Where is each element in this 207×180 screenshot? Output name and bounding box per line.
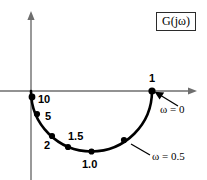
marker-omega-0 [148, 87, 155, 94]
annotation-omega-half: ω = 0.5 [152, 151, 185, 162]
annotation-omega-zero: ω = 0 [160, 104, 184, 115]
gjw-title-text: G(jω) [162, 14, 190, 28]
marker-omega-0p5 [121, 137, 127, 143]
imaginary-axis-arrowhead [27, 11, 34, 20]
label-omega-5: 5 [45, 111, 51, 122]
marker-omega-5 [34, 111, 40, 117]
marker-omega-1p0 [88, 148, 94, 154]
label-omega-1p5: 1.5 [68, 131, 83, 142]
nyquist-plot-figure: G(jω) 1 10 5 2 1.5 1.0 ω = 0 ω = 0.5 [0, 0, 207, 180]
marker-omega-10 [29, 94, 36, 101]
label-omega-2: 2 [44, 140, 50, 151]
omega-half-leader-arrow [131, 144, 150, 155]
label-omega-1p0: 1.0 [82, 159, 97, 170]
marker-omega-1p5 [65, 144, 71, 150]
real-axis [0, 87, 197, 94]
label-omega-10: 10 [38, 94, 50, 105]
real-axis-arrowhead [188, 87, 197, 94]
gjw-title-box: G(jω) [156, 12, 196, 31]
label-endpoint-1: 1 [149, 73, 155, 84]
